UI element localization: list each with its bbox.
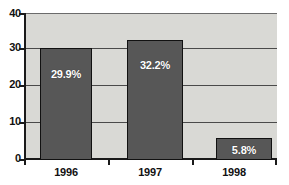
x-axis-label-1998: 1998: [204, 166, 264, 178]
y-axis-tick-label-30: 30: [0, 42, 21, 53]
x-axis-label-1996: 1996: [36, 166, 96, 178]
bar-label-1998: 5.8%: [217, 144, 271, 156]
y-axis-tick-label-10: 10: [0, 116, 21, 127]
gridline-40: [26, 13, 277, 14]
x-axis-tick-mark-0: [24, 160, 26, 165]
x-axis-tick-mark-3: [275, 160, 277, 165]
x-axis-tick-mark-2: [192, 160, 194, 165]
bar-1996: 29.9%: [40, 48, 92, 160]
plot-area: 29.9% 32.2% 5.8%: [24, 13, 277, 160]
bar-chart: 40 30 20 10 0 29.9% 32.2%: [0, 0, 289, 185]
y-axis: 40 30 20 10 0: [0, 0, 21, 185]
bar-label-1997: 32.2%: [128, 59, 182, 71]
plot-inner: 29.9% 32.2% 5.8%: [26, 13, 277, 158]
bar-label-1996: 29.9%: [41, 68, 91, 80]
y-axis-tick-label-0: 0: [0, 153, 21, 164]
y-axis-tick-label-40: 40: [0, 8, 21, 19]
bar-1997: 32.2%: [127, 40, 183, 160]
x-axis-tick-mark-1: [108, 160, 110, 165]
y-axis-tick-label-20: 20: [0, 79, 21, 90]
bar-1998: 5.8%: [216, 138, 272, 160]
x-axis-label-1997: 1997: [120, 166, 180, 178]
